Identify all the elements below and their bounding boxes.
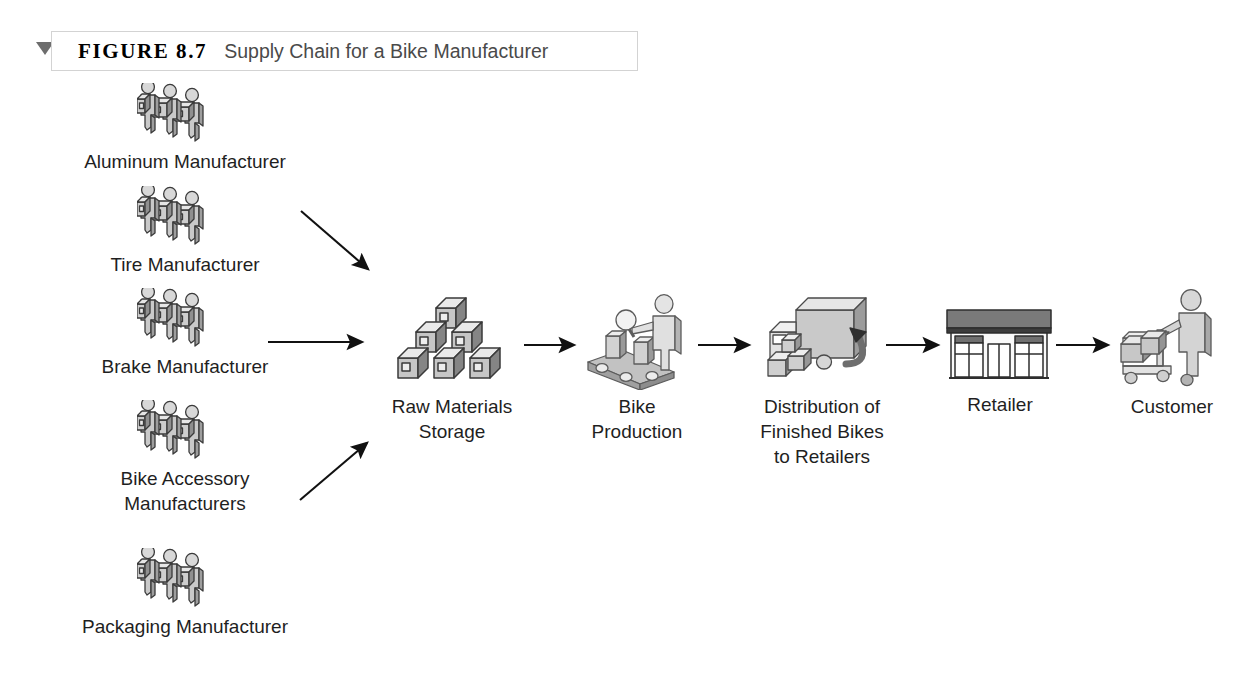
arrow-suppliers-top-to-storage: [301, 211, 368, 269]
supplier-node-brake-manufacturer: Brake Manufacturer: [60, 288, 310, 379]
three-workers-carrying-boxes-icon: [137, 400, 233, 462]
supplier-node-tire-manufacturer: Tire Manufacturer: [60, 186, 310, 277]
supplier-label-bike-accessory-manufacturers: Bike Accessory Manufacturers: [121, 466, 250, 516]
three-workers-carrying-boxes-icon: [137, 548, 233, 610]
delivery-truck-loading-icon: [762, 288, 882, 390]
supplier-label-aluminum-manufacturer: Aluminum Manufacturer: [84, 149, 286, 174]
chain-node-retailer: Retailer: [938, 300, 1062, 417]
supplier-label-brake-manufacturer: Brake Manufacturer: [102, 354, 269, 379]
supplier-node-aluminum-manufacturer: Aluminum Manufacturer: [60, 83, 310, 174]
chain-node-distribution: Distribution of Finished Bikes to Retail…: [748, 288, 896, 469]
three-workers-carrying-boxes-icon: [137, 186, 233, 248]
chain-node-customer: Customer: [1108, 286, 1236, 419]
figure-number-label: FIGURE 8.7: [78, 39, 207, 64]
figure-title: Supply Chain for a Bike Manufacturer: [224, 40, 548, 63]
figure-caption-bar: FIGURE 8.7 Supply Chain for a Bike Manuf…: [51, 31, 638, 71]
chain-label-retailer: Retailer: [967, 392, 1032, 417]
customer-pushing-cart-icon: [1113, 286, 1231, 390]
chain-node-raw-materials-storage: Raw Materials Storage: [378, 290, 526, 444]
chain-label-bike-production: Bike Production: [592, 394, 683, 444]
stacked-boxes-pyramid-icon: [396, 290, 508, 390]
supplier-label-tire-manufacturer: Tire Manufacturer: [110, 252, 259, 277]
three-workers-carrying-boxes-icon: [137, 288, 233, 350]
chain-label-raw-materials-storage: Raw Materials Storage: [392, 394, 512, 444]
figure-container: FIGURE 8.7 Supply Chain for a Bike Manuf…: [0, 0, 1260, 673]
chain-label-customer: Customer: [1131, 394, 1213, 419]
storefront-icon: [941, 300, 1059, 388]
supplier-label-packaging-manufacturer: Packaging Manufacturer: [82, 614, 288, 639]
chain-node-bike-production: Bike Production: [576, 288, 698, 444]
supplier-node-packaging-manufacturer: Packaging Manufacturer: [60, 548, 310, 639]
three-workers-carrying-boxes-icon: [137, 83, 233, 145]
supplier-node-bike-accessory-manufacturers: Bike Accessory Manufacturers: [60, 400, 310, 516]
conveyor-belt-worker-icon: [582, 288, 692, 390]
arrow-suppliers-bottom-to-storage: [300, 443, 367, 500]
chain-label-distribution: Distribution of Finished Bikes to Retail…: [760, 394, 884, 469]
